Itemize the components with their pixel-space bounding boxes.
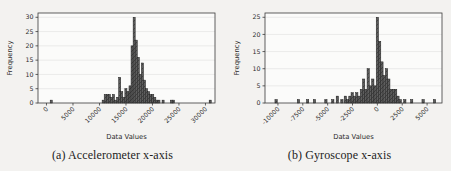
svg-text:10: 10: [252, 65, 260, 72]
svg-text:0: 0: [41, 105, 49, 113]
figure-panel: 0510152025300500010000150002000025000300…: [0, 0, 451, 163]
svg-text:25000: 25000: [163, 105, 182, 124]
svg-text:25: 25: [25, 28, 33, 35]
accelerometer-histogram: 0510152025300500010000150002000025000300…: [4, 3, 221, 147]
svg-text:0: 0: [29, 99, 33, 106]
svg-text:Data Values: Data Values: [333, 133, 374, 141]
svg-text:25: 25: [252, 13, 260, 20]
gyroscope-histogram: 0510152025-10000-7500-5000-2500025005000…: [231, 3, 448, 147]
figure-b-caption: (b) Gyroscope x-axis: [231, 148, 448, 163]
svg-text:5000: 5000: [414, 105, 430, 121]
svg-text:15: 15: [25, 56, 33, 63]
svg-text:20: 20: [252, 31, 260, 38]
svg-text:-5000: -5000: [313, 105, 331, 123]
svg-text:0: 0: [256, 99, 260, 106]
svg-text:15: 15: [252, 48, 260, 55]
figure-a: 0510152025300500010000150002000025000300…: [4, 3, 221, 163]
svg-text:-10000: -10000: [260, 105, 280, 125]
svg-text:20: 20: [25, 42, 33, 49]
svg-text:30000: 30000: [189, 105, 208, 124]
svg-text:15000: 15000: [110, 105, 129, 124]
svg-text:-2500: -2500: [338, 105, 356, 123]
svg-text:20000: 20000: [136, 105, 155, 124]
figure-a-caption: (a) Accelerometer x-axis: [4, 148, 221, 163]
svg-text:0: 0: [372, 105, 380, 113]
svg-text:5: 5: [29, 85, 33, 92]
svg-text:10000: 10000: [83, 105, 102, 124]
svg-text:5000: 5000: [60, 105, 76, 121]
svg-text:Frequency: Frequency: [6, 40, 14, 75]
svg-text:10: 10: [25, 71, 33, 78]
svg-text:5: 5: [256, 82, 260, 89]
svg-text:-7500: -7500: [288, 105, 306, 123]
svg-text:30: 30: [25, 13, 33, 20]
svg-text:2500: 2500: [389, 105, 405, 121]
figure-b: 0510152025-10000-7500-5000-2500025005000…: [231, 3, 448, 163]
svg-text:Frequency: Frequency: [233, 40, 241, 75]
svg-text:Data Values: Data Values: [106, 133, 147, 141]
